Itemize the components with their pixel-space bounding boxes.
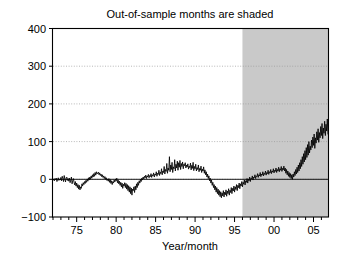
y-tick-label: 100: [28, 136, 46, 148]
y-tick-label: 0: [40, 173, 46, 185]
out-of-sample-shaded-region: [242, 29, 328, 218]
chart-title: Out-of-sample months are shaded: [107, 8, 274, 20]
x-tick-label: 05: [307, 224, 319, 236]
x-tick-label: 75: [71, 224, 83, 236]
x-tick-label: 85: [149, 224, 161, 236]
chart-figure: Out-of-sample months are shaded −1000100…: [0, 0, 343, 259]
x-tick-label: 80: [110, 224, 122, 236]
x-tick-label: 95: [228, 224, 240, 236]
x-tick-label: 00: [268, 224, 280, 236]
x-axis-label: Year/month: [162, 240, 218, 252]
y-tick-label: −100: [21, 211, 46, 223]
y-tick-label: 300: [28, 60, 46, 72]
y-tick-label: 200: [28, 98, 46, 110]
line-chart: Out-of-sample months are shaded −1000100…: [0, 0, 343, 259]
x-tick-label: 90: [189, 224, 201, 236]
y-tick-label: 400: [28, 23, 46, 35]
